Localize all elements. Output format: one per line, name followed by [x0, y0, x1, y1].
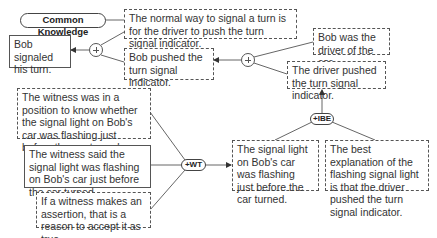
node-normal-way: The normal way to signal a turn is for t…: [124, 9, 297, 39]
node-signal-flashing: The signal light on Bob's car was flashi…: [232, 140, 319, 191]
node-bob-signaled: Bob signaled his turn.: [9, 35, 71, 68]
node-bob-pushed: Bob pushed the turn signal indicator.: [124, 48, 214, 80]
plus-junction-icon: [241, 53, 255, 67]
ibe-junction: +IBE: [310, 113, 334, 125]
node-driver-pushed: The driver pushed the turn signal indica…: [287, 61, 386, 89]
node-bob-driver: Bob was the driver of the car.: [313, 28, 390, 55]
node-best-explanation: The best explanation of the flashing sig…: [325, 140, 429, 191]
node-witness-said: The witness said the signal light was fl…: [24, 145, 151, 188]
node-witness-position: The witness was in a position to know wh…: [17, 88, 151, 139]
wt-junction: +WT: [181, 159, 206, 171]
node-witness-assertion: If a witness makes an assertion, that is…: [36, 192, 151, 228]
plus-junction-icon: [89, 43, 103, 57]
common-knowledge-tag: Common Knowledge: [20, 13, 106, 28]
